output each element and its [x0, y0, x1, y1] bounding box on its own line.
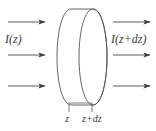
slab-diagram-canvas [0, 0, 156, 131]
position-front-label: z [65, 114, 69, 124]
figure-container: I(z) I(z+dz) z z+dz [0, 0, 156, 131]
transmitted-intensity-label: I(z+dz) [111, 33, 146, 45]
thickness-indicator [69, 103, 92, 112]
position-back-label: z+dz [82, 114, 102, 124]
absorbing-slab [57, 9, 107, 105]
slab-front-face [79, 9, 107, 105]
slab-silhouette [57, 9, 107, 105]
incident-intensity-label: I(z) [5, 33, 22, 45]
